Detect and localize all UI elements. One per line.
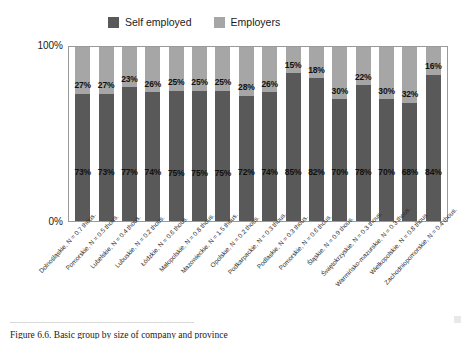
bar-15[interactable]: 16%84% xyxy=(426,47,441,221)
caption-divider xyxy=(10,322,194,323)
bar-value-label-self-employed: 70% xyxy=(332,168,348,177)
bar-7[interactable]: 28%72% xyxy=(239,47,254,221)
bar-value-label-self-employed: 75% xyxy=(191,169,207,178)
bar-segment-employers[interactable]: 32% xyxy=(402,47,417,103)
bar-11[interactable]: 30%70% xyxy=(332,47,347,221)
bar-segment-employers[interactable]: 25% xyxy=(215,47,230,91)
bar-segment-employers[interactable]: 16% xyxy=(426,47,441,75)
bar-value-label-self-employed: 77% xyxy=(121,168,137,177)
bar-segment-employers[interactable]: 30% xyxy=(332,47,347,99)
bar-segment-self-employed[interactable]: 72% xyxy=(239,96,254,221)
bar-10[interactable]: 18%82% xyxy=(309,47,324,221)
bar-segment-self-employed[interactable]: 73% xyxy=(99,94,114,221)
bar-value-label-employers: 27% xyxy=(98,81,114,90)
bar-6[interactable]: 25%75% xyxy=(215,47,230,221)
bar-segment-self-employed[interactable]: 68% xyxy=(402,103,417,221)
legend-label-self-employed: Self employed xyxy=(125,17,192,28)
bar-value-label-employers: 23% xyxy=(121,75,137,84)
bar-value-label-self-employed: 73% xyxy=(74,168,90,177)
bar-segment-self-employed[interactable]: 74% xyxy=(145,92,160,221)
bar-value-label-self-employed: 68% xyxy=(402,168,418,177)
bar-segment-employers[interactable]: 26% xyxy=(262,47,277,92)
bar-segment-employers[interactable]: 15% xyxy=(286,47,301,73)
bar-segment-self-employed[interactable]: 82% xyxy=(309,78,324,221)
bar-segment-employers[interactable]: 26% xyxy=(145,47,160,92)
bar-value-label-employers: 22% xyxy=(355,73,371,82)
bar-value-label-employers: 30% xyxy=(332,87,348,96)
bar-segment-self-employed[interactable]: 78% xyxy=(356,85,371,221)
bar-value-label-employers: 18% xyxy=(308,66,324,75)
figure-container: Self employed Employers 100% 0% 27%73%27… xyxy=(0,0,469,339)
bar-segment-employers[interactable]: 30% xyxy=(379,47,394,99)
page-corner-mark xyxy=(454,316,461,323)
bar-value-label-employers: 15% xyxy=(285,61,301,70)
x-axis-tick-labels: Dolnośląskie, N = 0.7 thous.Pomorskie, N… xyxy=(68,224,448,314)
bar-value-label-employers: 25% xyxy=(215,78,231,87)
bar-segment-employers[interactable]: 22% xyxy=(356,47,371,85)
x-axis-tick-label-11: Śląskie, N = 0.9 thous. xyxy=(306,215,355,267)
bar-5[interactable]: 25%75% xyxy=(192,47,207,221)
bar-9[interactable]: 15%85% xyxy=(286,47,301,221)
bar-segment-self-employed[interactable]: 84% xyxy=(426,75,441,221)
bar-segment-employers[interactable]: 28% xyxy=(239,47,254,96)
plot-area: 27%73%27%73%23%77%26%74%25%75%25%75%25%7… xyxy=(68,46,448,222)
bar-segment-employers[interactable]: 27% xyxy=(75,47,90,94)
bar-segment-self-employed[interactable]: 75% xyxy=(192,91,207,222)
legend-swatch-self-employed xyxy=(108,17,119,28)
bar-segment-self-employed[interactable]: 70% xyxy=(332,99,347,221)
bar-segment-self-employed[interactable]: 70% xyxy=(379,99,394,221)
legend-item-self-employed: Self employed xyxy=(108,17,192,28)
figure-caption: Figure 6.6. Basic group by size of compa… xyxy=(10,330,228,339)
bar-value-label-self-employed: 72% xyxy=(238,168,254,177)
legend-item-employers: Employers xyxy=(214,17,281,28)
bar-value-label-employers: 26% xyxy=(145,80,161,89)
bar-value-label-employers: 25% xyxy=(168,78,184,87)
bar-segment-self-employed[interactable]: 73% xyxy=(75,94,90,221)
bar-value-label-employers: 28% xyxy=(238,83,254,92)
bar-value-label-self-employed: 70% xyxy=(378,168,394,177)
y-axis-tick-0: 0% xyxy=(0,217,63,227)
legend-label-employers: Employers xyxy=(231,17,281,28)
bar-segment-employers[interactable]: 18% xyxy=(309,47,324,78)
bar-8[interactable]: 26%74% xyxy=(262,47,277,221)
bar-value-label-employers: 32% xyxy=(402,90,418,99)
bar-value-label-self-employed: 84% xyxy=(425,168,441,177)
bar-segment-self-employed[interactable]: 85% xyxy=(286,73,301,221)
bar-value-label-self-employed: 74% xyxy=(261,168,277,177)
bar-value-label-self-employed: 78% xyxy=(355,168,371,177)
bar-value-label-self-employed: 74% xyxy=(145,168,161,177)
bar-value-label-employers: 27% xyxy=(74,81,90,90)
bar-2[interactable]: 23%77% xyxy=(122,47,137,221)
y-axis-tick-100: 100% xyxy=(0,41,63,51)
bar-0[interactable]: 27%73% xyxy=(75,47,90,221)
bar-value-label-employers: 26% xyxy=(261,80,277,89)
bar-12[interactable]: 22%78% xyxy=(356,47,371,221)
bar-value-label-employers: 16% xyxy=(425,62,441,71)
bar-value-label-self-employed: 85% xyxy=(285,168,301,177)
bar-value-label-employers: 30% xyxy=(378,87,394,96)
bar-segment-self-employed[interactable]: 74% xyxy=(262,92,277,221)
bar-segment-employers[interactable]: 27% xyxy=(99,47,114,94)
bar-segment-self-employed[interactable]: 77% xyxy=(122,87,137,221)
bar-segment-self-employed[interactable]: 75% xyxy=(169,91,184,222)
bar-value-label-employers: 25% xyxy=(191,78,207,87)
bar-value-label-self-employed: 75% xyxy=(215,169,231,178)
bar-segment-employers[interactable]: 23% xyxy=(122,47,137,87)
bar-14[interactable]: 32%68% xyxy=(402,47,417,221)
bar-segment-self-employed[interactable]: 75% xyxy=(215,91,230,222)
bar-1[interactable]: 27%73% xyxy=(99,47,114,221)
bar-segment-employers[interactable]: 25% xyxy=(169,47,184,91)
bar-4[interactable]: 25%75% xyxy=(169,47,184,221)
bar-value-label-self-employed: 73% xyxy=(98,168,114,177)
bar-segment-employers[interactable]: 25% xyxy=(192,47,207,91)
bar-13[interactable]: 30%70% xyxy=(379,47,394,221)
bar-group: 27%73%27%73%23%77%26%74%25%75%25%75%25%7… xyxy=(69,47,447,221)
chart-legend: Self employed Employers xyxy=(108,14,280,30)
bar-3[interactable]: 26%74% xyxy=(145,47,160,221)
legend-swatch-employers xyxy=(214,17,225,28)
bar-value-label-self-employed: 82% xyxy=(308,168,324,177)
bar-value-label-self-employed: 75% xyxy=(168,169,184,178)
